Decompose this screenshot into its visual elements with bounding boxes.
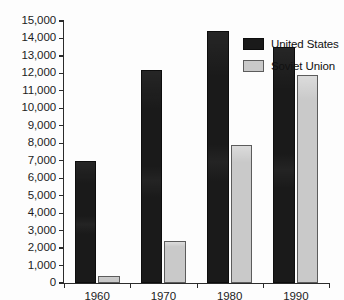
- y-tick-label: 3,000: [28, 223, 56, 238]
- y-tick-label: 7,000: [28, 153, 56, 168]
- x-tick-label: 1980: [217, 289, 242, 300]
- y-tick-label: 13,000: [21, 48, 56, 63]
- x-axis-tick-mark: [64, 283, 65, 288]
- y-tick-label: 2,000: [28, 240, 56, 255]
- bar-united-states-1970: [141, 70, 163, 283]
- y-tick-label: 14,000: [21, 30, 56, 45]
- y-tick-label: 0: [50, 275, 56, 290]
- bar-chart: 01,0002,0003,0004,0005,0006,0007,0008,00…: [0, 0, 344, 300]
- y-tick-label: 5,000: [28, 188, 56, 203]
- bar-soviet-union-1970: [164, 241, 186, 283]
- bar-soviet-union-1990: [297, 75, 319, 283]
- x-tick-label: 1970: [151, 289, 176, 300]
- legend-label: United States: [271, 37, 339, 51]
- y-tick-label: 11,000: [22, 83, 56, 98]
- y-tick-label: 4,000: [28, 205, 56, 220]
- x-axis-tick-mark: [197, 283, 198, 288]
- x-tick-label: 1960: [85, 289, 110, 300]
- legend-item: Soviet Union: [243, 55, 339, 77]
- bar-united-states-1980: [207, 31, 229, 283]
- x-axis-tick-mark: [329, 283, 330, 288]
- y-tick-label: 12,000: [21, 65, 56, 80]
- y-tick-label: 10,000: [21, 100, 56, 115]
- y-tick-label: 15,000: [21, 13, 56, 28]
- bar-soviet-union-1960: [98, 276, 120, 283]
- x-tick-label: 1990: [283, 289, 308, 300]
- legend-swatch-soviet-union: [243, 60, 264, 72]
- legend-item: United States: [243, 33, 339, 55]
- y-tick-label: 6,000: [28, 170, 56, 185]
- x-axis-tick-mark: [263, 283, 264, 288]
- bar-soviet-union-1980: [231, 145, 253, 283]
- legend-label: Soviet Union: [271, 59, 335, 73]
- x-axis-tick-mark: [130, 283, 131, 288]
- bar-united-states-1990: [273, 47, 295, 283]
- chart-legend: United StatesSoviet Union: [243, 33, 339, 77]
- legend-swatch-united-states: [243, 38, 264, 50]
- y-tick-label: 8,000: [28, 135, 56, 150]
- y-tick-label: 9,000: [28, 118, 56, 133]
- y-tick-label: 1,000: [28, 258, 56, 273]
- bar-united-states-1960: [75, 161, 97, 283]
